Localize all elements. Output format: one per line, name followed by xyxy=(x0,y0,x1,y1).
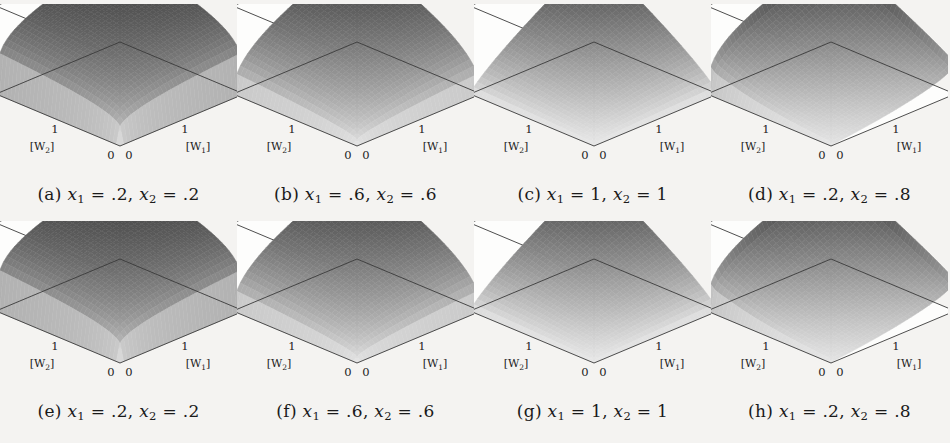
caption-x1: x1 xyxy=(67,184,85,204)
caption-x1: x1 xyxy=(547,184,565,204)
w2-tick-label: 0 xyxy=(581,148,588,162)
panel-e: 00.51210012[W2][W1]|Y|/(|X1| + |X2|)(e) … xyxy=(0,221,237,438)
caption-x1: x1 xyxy=(779,401,797,421)
w2-tick-label: 0 xyxy=(818,365,825,379)
panel-f: 00.51210012[W2][W1]|Y|/(|X1| + |X2|)(f) … xyxy=(237,221,474,438)
plot-area-a: 00.51210012[W2][W1]|Y|/(|X1| + |X2|) xyxy=(0,4,237,186)
w1-tick-label: 1 xyxy=(892,339,899,353)
surface-mesh-h xyxy=(711,221,948,363)
w2-tick-label: 1 xyxy=(288,122,295,136)
panel-g: 00.51210012[W2][W1]|Y|/(|X1| + |X2|)(g) … xyxy=(474,221,711,438)
w1-axis-title: [W1] xyxy=(423,140,448,155)
caption-x1-value: 1 xyxy=(591,401,602,421)
w2-tick-label: 1 xyxy=(525,339,532,353)
caption-x2-value: .8 xyxy=(894,401,911,421)
caption-x2: x2 xyxy=(374,401,392,421)
w2-axis-title: [W2] xyxy=(267,140,292,155)
caption-x2: x2 xyxy=(851,401,869,421)
w2-axis-title: [W2] xyxy=(504,357,529,372)
surface-mesh-e xyxy=(0,221,237,363)
w2-tick-label: 1 xyxy=(51,339,58,353)
caption-x2: x2 xyxy=(613,184,631,204)
plot-area-e: 00.51210012[W2][W1]|Y|/(|X1| + |X2|) xyxy=(0,221,237,403)
caption-x1: x1 xyxy=(548,401,566,421)
surface-mesh-f xyxy=(237,221,474,363)
w1-tick-label: 1 xyxy=(181,122,188,136)
panel-caption-e: (e) x1 = .2, x2 = .2 xyxy=(0,401,237,423)
caption-tag: (h) xyxy=(748,401,773,421)
w2-tick-label: 1 xyxy=(288,339,295,353)
w1-tick-label: 1 xyxy=(655,339,662,353)
panel-h: 00.51210012[W2][W1]|Y|/(|X1| + |X2|)(h) … xyxy=(711,221,948,438)
w1-axis-title: [W1] xyxy=(186,140,211,155)
caption-tag: (c) xyxy=(517,184,541,204)
w1-tick-label: 1 xyxy=(655,122,662,136)
panel-caption-f: (f) x1 = .6, x2 = .6 xyxy=(237,401,474,423)
panel-d: 00.51210012[W2][W1]|Y|/(|X1| + |X2|)(d) … xyxy=(711,4,948,221)
w2-tick-label: 0 xyxy=(107,148,114,162)
w2-axis-title: [W2] xyxy=(741,357,766,372)
w1-axis-title: [W1] xyxy=(423,357,448,372)
w2-tick-label: 0 xyxy=(344,365,351,379)
figure-panel-grid: 00.51210012[W2][W1]|Y|/(|X1| + |X2|)(a) … xyxy=(0,0,950,443)
panel-b: 00.51210012[W2][W1]|Y|/(|X1| + |X2|)(b) … xyxy=(237,4,474,221)
w1-tick-label: 0 xyxy=(362,365,369,379)
caption-tag: (a) xyxy=(37,184,61,204)
panel-c: 00.51210012[W2][W1]|Y|/(|X1| + |X2|)(c) … xyxy=(474,4,711,221)
caption-x1-value: 1 xyxy=(590,184,601,204)
caption-x2-value: .2 xyxy=(183,184,200,204)
w1-tick-label: 0 xyxy=(599,365,606,379)
panel-caption-h: (h) x1 = .2, x2 = .8 xyxy=(711,401,948,423)
w1-tick-label: 1 xyxy=(418,339,425,353)
caption-x1-value: .6 xyxy=(346,401,363,421)
surface-mesh-b xyxy=(237,4,474,146)
figure-row-top: 00.51210012[W2][W1]|Y|/(|X1| + |X2|)(a) … xyxy=(0,4,950,221)
w1-axis-title: [W1] xyxy=(660,140,685,155)
figure-row-bottom: 00.51210012[W2][W1]|Y|/(|X1| + |X2|)(e) … xyxy=(0,221,950,438)
w1-tick-label: 0 xyxy=(125,365,132,379)
caption-x2: x2 xyxy=(139,401,157,421)
panel-caption-d: (d) x1 = .2, x2 = .8 xyxy=(711,184,948,206)
caption-tag: (d) xyxy=(748,184,773,204)
w1-tick-label: 1 xyxy=(418,122,425,136)
w2-tick-label: 1 xyxy=(762,339,769,353)
caption-tag: (f) xyxy=(276,401,296,421)
surface-mesh-d xyxy=(711,4,948,146)
caption-x2-value: .8 xyxy=(894,184,911,204)
plot-area-d: 00.51210012[W2][W1]|Y|/(|X1| + |X2|) xyxy=(711,4,948,186)
caption-x2-value: .2 xyxy=(183,401,200,421)
w1-tick-label: 0 xyxy=(599,148,606,162)
w1-tick-label: 0 xyxy=(362,148,369,162)
caption-x2: x2 xyxy=(139,184,157,204)
caption-x2-value: .6 xyxy=(420,184,437,204)
caption-x2: x2 xyxy=(851,184,869,204)
plot-area-g: 00.51210012[W2][W1]|Y|/(|X1| + |X2|) xyxy=(474,221,711,403)
caption-x1-value: .2 xyxy=(822,184,839,204)
w1-axis-title: [W1] xyxy=(660,357,685,372)
w1-tick-label: 0 xyxy=(836,365,843,379)
w2-axis-title: [W2] xyxy=(30,357,55,372)
caption-x2-value: 1 xyxy=(657,401,668,421)
panel-caption-c: (c) x1 = 1, x2 = 1 xyxy=(474,184,711,206)
w2-axis-title: [W2] xyxy=(30,140,55,155)
caption-x1-value: .6 xyxy=(348,184,365,204)
caption-x1: x1 xyxy=(303,401,321,421)
w2-tick-label: 0 xyxy=(344,148,351,162)
plot-area-c: 00.51210012[W2][W1]|Y|/(|X1| + |X2|) xyxy=(474,4,711,186)
w2-tick-label: 1 xyxy=(762,122,769,136)
caption-x2: x2 xyxy=(377,184,395,204)
w2-tick-label: 0 xyxy=(107,365,114,379)
w1-tick-label: 0 xyxy=(125,148,132,162)
caption-x1-value: .2 xyxy=(111,184,128,204)
w2-tick-label: 0 xyxy=(581,365,588,379)
caption-x1-value: .2 xyxy=(111,401,128,421)
w2-tick-label: 1 xyxy=(525,122,532,136)
caption-x1: x1 xyxy=(779,184,797,204)
caption-x1: x1 xyxy=(305,184,323,204)
plot-area-f: 00.51210012[W2][W1]|Y|/(|X1| + |X2|) xyxy=(237,221,474,403)
plot-area-h: 00.51210012[W2][W1]|Y|/(|X1| + |X2|) xyxy=(711,221,948,403)
caption-x2-value: .6 xyxy=(418,401,435,421)
w2-axis-title: [W2] xyxy=(741,140,766,155)
caption-x2-value: 1 xyxy=(656,184,667,204)
w1-axis-title: [W1] xyxy=(897,140,922,155)
